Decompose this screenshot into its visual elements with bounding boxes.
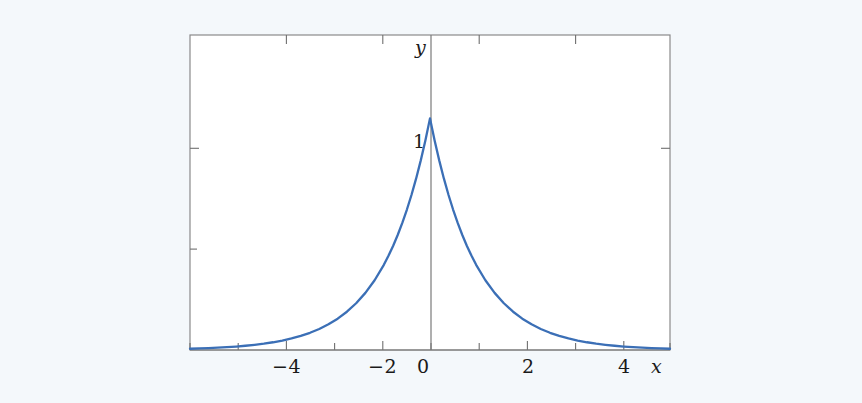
x-axis-label: x	[651, 357, 662, 376]
plot-area-background	[190, 35, 670, 350]
xtick-label-minus-4: −4	[272, 357, 301, 376]
figure-container: −4 −2 0 2 4 1 y x	[0, 0, 862, 403]
xtick-label-4: 4	[618, 357, 631, 376]
xtick-label-0: 0	[417, 357, 430, 376]
ytick-label-1: 1	[413, 132, 426, 151]
xtick-label-2: 2	[522, 357, 535, 376]
xtick-label-minus-2: −2	[368, 357, 397, 376]
y-axis-label: y	[415, 38, 426, 57]
plot-canvas	[0, 0, 862, 403]
